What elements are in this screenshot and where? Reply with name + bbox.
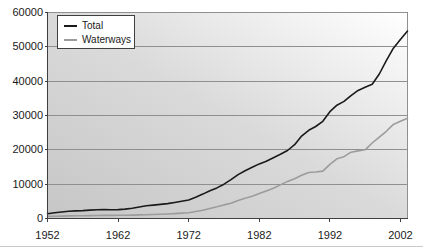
x-tick-label-1992: 1992 [318, 229, 342, 242]
y-tick-label-30000: 30000 [12, 109, 43, 122]
y-tick-label-0: 0 [37, 212, 43, 225]
x-tick-label-1972: 1972 [176, 229, 200, 242]
total-line-marker [64, 25, 77, 27]
line-chart: 0100002000030000400005000060000 19521962… [0, 0, 423, 249]
y-tick-label-50000: 50000 [12, 40, 43, 53]
x-tick-label-1952: 1952 [35, 229, 59, 242]
legend-label-total: Total [82, 19, 103, 33]
x-tick-label-2002: 2002 [388, 229, 412, 242]
x-tick-label-1982: 1982 [247, 229, 271, 242]
y-tick-label-60000: 60000 [12, 6, 43, 19]
x-tick-label-1962: 1962 [106, 229, 130, 242]
legend-label-waterways: Waterways [82, 33, 131, 47]
page-divider-line [0, 246, 423, 247]
legend: Total Waterways [57, 15, 135, 49]
legend-item-waterways: Waterways [64, 33, 131, 47]
legend-item-total: Total [64, 19, 131, 33]
y-tick-label-10000: 10000 [12, 178, 43, 191]
y-tick-label-20000: 20000 [12, 143, 43, 156]
waterways-line-marker [64, 39, 77, 41]
y-tick-label-40000: 40000 [12, 75, 43, 88]
